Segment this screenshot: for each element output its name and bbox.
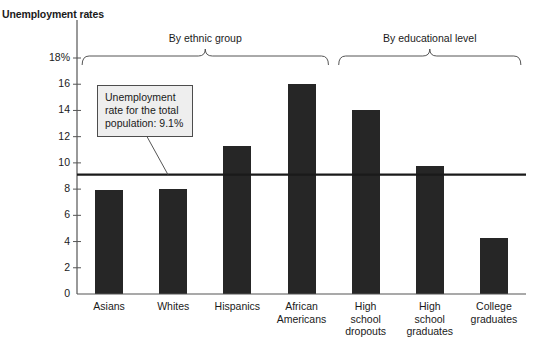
group-bracket bbox=[82, 49, 328, 65]
chart-overlay-lines bbox=[0, 0, 534, 344]
callout-leader-line bbox=[145, 133, 168, 175]
reference-line-callout: Unemployment rate for the total populati… bbox=[97, 85, 193, 137]
group-bracket bbox=[339, 49, 521, 65]
unemployment-rates-bar-chart: Unemployment rates 024681012141618% Asia… bbox=[0, 0, 534, 344]
